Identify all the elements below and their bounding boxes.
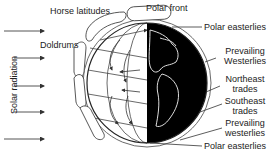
- label-northeast-trades: Northeast trades: [218, 74, 272, 94]
- label-solar-radiation: Solar radiation: [9, 55, 19, 115]
- label-polar-easterlies-south: Polar easterlies: [204, 141, 266, 151]
- label-polar-front: Polar front: [146, 3, 188, 13]
- label-southeast-trades: Southeast trades: [218, 96, 272, 116]
- wind-circulation-diagram: Horse latitudes Polar front Doldrums Pol…: [0, 0, 272, 154]
- label-prevailing-westerlies-south: Prevailing westerlies: [218, 118, 272, 138]
- label-doldrums: Doldrums: [40, 40, 79, 50]
- label-polar-easterlies-north: Polar easterlies: [204, 22, 266, 32]
- label-horse-latitudes: Horse latitudes: [50, 6, 110, 16]
- label-prevailing-westerlies-north: Prevailing Westerlies: [218, 46, 272, 66]
